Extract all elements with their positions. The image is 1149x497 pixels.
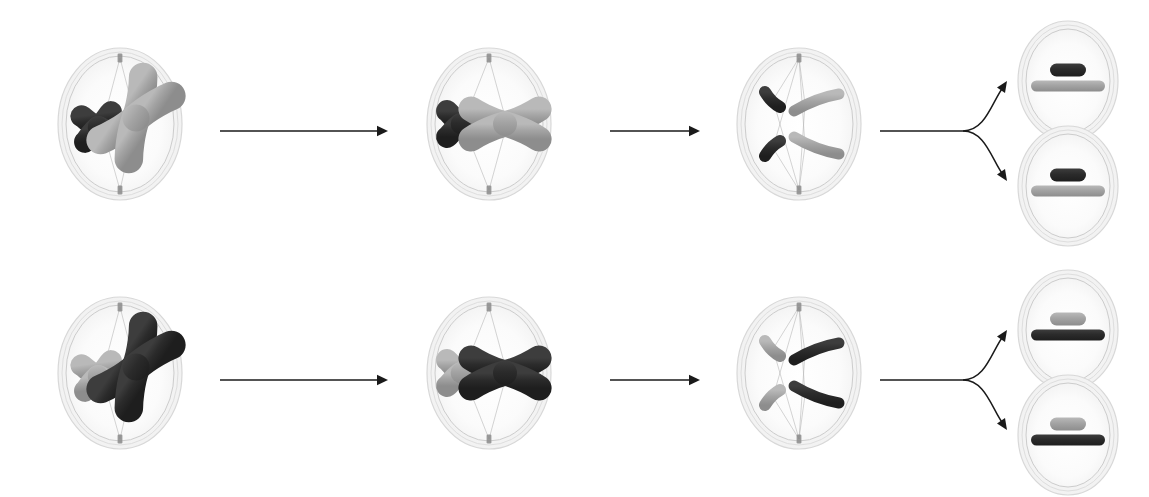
bottom-daughter-upper-chr-short <box>1050 313 1086 326</box>
row-top-svg <box>0 0 1149 248</box>
top-arrow-branch-branch-down <box>963 131 1004 176</box>
assortment-arrangement-2 <box>0 249 1149 497</box>
bottom-prophase-centrosome-top <box>118 303 123 312</box>
bottom-arrow-2-head <box>689 375 700 385</box>
bottom-arrow-branch-branch-up <box>963 335 1004 380</box>
top-arrow-branch[interactable] <box>880 81 1007 181</box>
bottom-arrow-branch[interactable] <box>880 330 1007 430</box>
top-daughter-lower-chr-short <box>1050 169 1086 182</box>
top-daughter-upper-chr-long <box>1031 81 1105 92</box>
bottom-metaphase-centrosome-bottom <box>487 435 492 444</box>
bottom-metaphase[interactable] <box>427 297 551 449</box>
top-anaphase-cytoplasm <box>745 56 853 192</box>
top-prophase-centrosome-bottom <box>118 186 123 195</box>
bottom-anaphase-centrosome-top <box>797 303 802 312</box>
top-metaphase-centrosome-bottom <box>487 186 492 195</box>
top-metaphase[interactable] <box>427 48 551 200</box>
top-anaphase[interactable] <box>737 48 861 200</box>
bottom-daughter-upper[interactable] <box>1018 270 1118 390</box>
top-daughter-upper-chr-short <box>1050 64 1086 77</box>
bottom-arrow-2[interactable] <box>610 375 700 385</box>
bottom-daughter-lower[interactable] <box>1018 375 1118 495</box>
bottom-arrow-1-head <box>377 375 388 385</box>
diagram-canvas <box>0 0 1149 497</box>
top-arrow-2-head <box>689 126 700 136</box>
top-anaphase-centrosome-top <box>797 54 802 63</box>
top-daughter-lower-chr-long <box>1031 186 1105 197</box>
bottom-metaphase-centrosome-top <box>487 303 492 312</box>
bottom-anaphase-cytoplasm <box>745 305 853 441</box>
top-metaphase-chr-long-centromere <box>493 112 517 136</box>
bottom-prophase-centrosome-bottom <box>118 435 123 444</box>
bottom-arrow-branch-branch-down <box>963 380 1004 425</box>
bottom-daughter-lower-chr-long <box>1031 435 1105 446</box>
bottom-prophase[interactable] <box>58 297 182 449</box>
assortment-arrangement-1 <box>0 0 1149 248</box>
top-arrow-2[interactable] <box>610 126 700 136</box>
top-metaphase-chr-long <box>471 109 539 139</box>
bottom-daughter-upper-chr-long <box>1031 330 1105 341</box>
bottom-anaphase-centrosome-bottom <box>797 435 802 444</box>
top-anaphase-centrosome-bottom <box>797 186 802 195</box>
bottom-arrow-branch-head-down <box>997 418 1007 430</box>
top-daughter-upper[interactable] <box>1018 21 1118 141</box>
bottom-anaphase[interactable] <box>737 297 861 449</box>
bottom-daughter-lower-chr-short <box>1050 418 1086 431</box>
bottom-arrow-1[interactable] <box>220 375 388 385</box>
row-bottom-svg <box>0 249 1149 497</box>
top-arrow-branch-head-up <box>997 81 1007 93</box>
top-arrow-1[interactable] <box>220 126 388 136</box>
bottom-metaphase-chr-long <box>471 358 539 388</box>
bottom-arrow-branch-head-up <box>997 330 1007 342</box>
top-arrow-branch-head-down <box>997 169 1007 181</box>
top-arrow-branch-branch-up <box>963 86 1004 131</box>
bottom-metaphase-chr-long-centromere <box>493 361 517 385</box>
top-prophase-centrosome-top <box>118 54 123 63</box>
top-metaphase-centrosome-top <box>487 54 492 63</box>
top-arrow-1-head <box>377 126 388 136</box>
top-daughter-lower[interactable] <box>1018 126 1118 246</box>
top-prophase[interactable] <box>58 48 182 200</box>
